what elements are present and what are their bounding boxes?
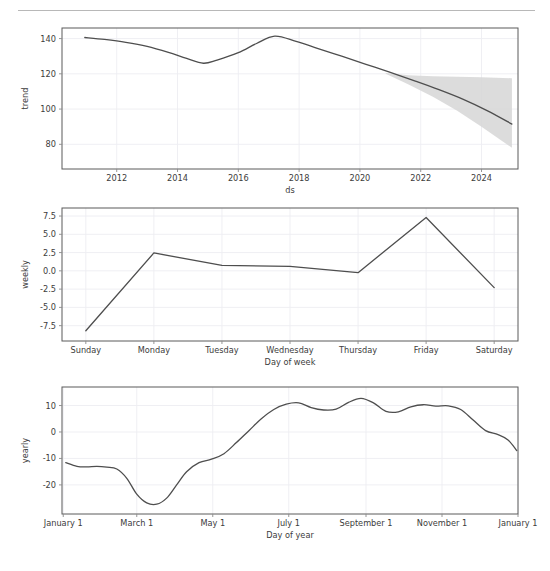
x-tick-label: 2020 [349, 173, 370, 183]
y-tick-label: 140 [40, 34, 56, 44]
x-tick-label: July 1 [276, 518, 300, 528]
x-tick-label: May 1 [200, 518, 225, 528]
y-tick-label: 0 [51, 427, 56, 437]
x-tick-label: 2018 [289, 173, 310, 183]
y-tick-label: 0.0 [43, 266, 56, 276]
x-tick-label: Sunday [71, 345, 102, 355]
x-tick-label: March 1 [120, 518, 153, 528]
x-tick-label: Thursday [338, 345, 377, 355]
y-tick-label: -20 [43, 480, 56, 490]
x-tick-label: Friday [414, 345, 439, 355]
y-tick-label: -2.5 [40, 284, 56, 294]
x-tick-label: Wednesday [266, 345, 314, 355]
y-tick-label: 10 [46, 401, 56, 411]
y-tick-label: 7.5 [43, 211, 56, 221]
y-tick-label: -5.0 [40, 302, 56, 312]
x-tick-label: November 1 [417, 518, 467, 528]
x-tick-label: January 1 [43, 518, 83, 528]
y-tick-label: 100 [40, 104, 56, 114]
x-tick-label: 2022 [410, 173, 431, 183]
x-axis-label: Day of week [265, 357, 316, 367]
series-line-yearly [66, 398, 517, 504]
uncertainty-band [386, 73, 512, 148]
x-tick-label: Tuesday [204, 345, 238, 355]
x-tick-label: September 1 [339, 518, 392, 528]
components-svg: 201220142016201820202022202480100120140t… [0, 0, 550, 571]
y-axis-label: yearly [20, 438, 30, 464]
prophet-components-figure: 201220142016201820202022202480100120140t… [0, 0, 550, 571]
y-axis-label: weekly [20, 260, 30, 289]
x-tick-label: 2014 [167, 173, 188, 183]
panel-yearly: January 1March 1May 1July 1September 1No… [20, 387, 537, 540]
x-tick-label: 2016 [228, 173, 249, 183]
x-tick-label: 2012 [106, 173, 127, 183]
y-axis-label: trend [20, 88, 30, 110]
x-axis-label: ds [285, 185, 294, 195]
panel-weekly: SundayMondayTuesdayWednesdayThursdayFrid… [20, 208, 518, 367]
x-tick-label: Saturday [476, 345, 513, 355]
x-tick-label: 2024 [471, 173, 492, 183]
y-tick-label: -10 [43, 453, 56, 463]
y-tick-label: 80 [46, 139, 56, 149]
panel-trend: 201220142016201820202022202480100120140t… [20, 28, 518, 195]
y-tick-label: -7.5 [40, 321, 56, 331]
x-axis-label: Day of year [266, 530, 314, 540]
y-tick-label: 5.0 [43, 229, 56, 239]
y-tick-label: 120 [40, 69, 56, 79]
x-tick-label: January 1 [498, 518, 538, 528]
y-tick-label: 2.5 [43, 248, 56, 258]
x-tick-label: Monday [138, 345, 170, 355]
